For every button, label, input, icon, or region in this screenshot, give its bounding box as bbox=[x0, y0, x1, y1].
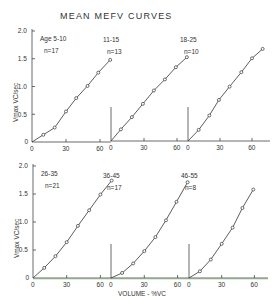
data-point-marker bbox=[76, 224, 79, 227]
data-point-marker bbox=[132, 262, 135, 265]
x-tick-label: 0 bbox=[30, 145, 34, 152]
data-point-marker bbox=[88, 209, 91, 212]
sample-size-label: n=17 bbox=[107, 184, 122, 191]
mefv-curve bbox=[111, 182, 188, 278]
data-point-marker bbox=[217, 98, 220, 101]
data-point-marker bbox=[43, 266, 46, 269]
age-group-label: 26-35 bbox=[41, 170, 58, 177]
panel-bottom-left: 0306000.51.01.52.0Vmax VC/sec26-35n=21 bbox=[13, 162, 113, 288]
data-point-marker bbox=[65, 241, 68, 244]
data-point-marker bbox=[152, 89, 155, 92]
panel-bottom-right: 0306046-55n=8 bbox=[181, 172, 268, 288]
data-point-marker bbox=[197, 128, 200, 131]
data-point-marker bbox=[231, 226, 234, 229]
panel-bottom-middle: 0306036-45n=17 bbox=[103, 172, 189, 288]
x-tick-label: 0 bbox=[31, 281, 35, 288]
data-point-marker bbox=[174, 66, 177, 69]
sample-size-label: n=17 bbox=[44, 47, 59, 54]
x-tick-label: 30 bbox=[216, 144, 224, 151]
y-tick-label: 1.0 bbox=[19, 218, 28, 225]
chart-title: MEAN MEFV CURVES bbox=[60, 11, 173, 21]
y-tick-label: 1.0 bbox=[18, 83, 27, 90]
data-point-marker bbox=[261, 47, 264, 50]
data-point-marker bbox=[241, 207, 244, 210]
x-tick-label: 0 bbox=[109, 144, 113, 151]
x-tick-label: 60 bbox=[96, 145, 104, 152]
data-point-marker bbox=[154, 236, 157, 239]
x-tick-label: 0 bbox=[187, 281, 191, 288]
sample-size-label: n=10 bbox=[184, 48, 199, 55]
panel-top-right: 0306018-25n=10 bbox=[180, 36, 270, 151]
age-group-label: 18-25 bbox=[180, 36, 197, 43]
chart-panels: 0306000.51.01.52.0Vmax VC/secAge 5-10n=1… bbox=[12, 27, 270, 288]
data-point-marker bbox=[110, 179, 113, 182]
y-tick-label: 1.5 bbox=[19, 190, 28, 197]
data-point-marker bbox=[252, 188, 255, 191]
data-point-marker bbox=[99, 193, 102, 196]
x-tick-label: 60 bbox=[248, 144, 256, 151]
x-tick-label: 30 bbox=[141, 281, 149, 288]
x-tick-label: 30 bbox=[63, 281, 71, 288]
x-tick-label: 0 bbox=[109, 281, 113, 288]
y-tick-label: 2.0 bbox=[19, 162, 28, 169]
data-point-marker bbox=[143, 250, 146, 253]
data-point-marker bbox=[54, 255, 57, 258]
x-tick-label: 60 bbox=[173, 144, 181, 151]
panel-top-middle: 0306011-15n=13 bbox=[103, 36, 188, 151]
data-point-marker bbox=[97, 71, 100, 74]
y-tick-label: 0 bbox=[26, 274, 30, 281]
age-group-label: 11-15 bbox=[103, 36, 120, 43]
data-point-marker bbox=[75, 97, 78, 100]
sample-size-label: n=8 bbox=[185, 184, 196, 191]
data-point-marker bbox=[251, 57, 254, 60]
data-point-marker bbox=[141, 102, 144, 105]
x-tick-label: 60 bbox=[97, 281, 105, 288]
mefv-chart: MEAN MEFV CURVES 0306000.51.01.52.0Vmax … bbox=[0, 0, 280, 300]
data-point-marker bbox=[86, 84, 89, 87]
data-point-marker bbox=[240, 71, 243, 74]
data-point-marker bbox=[228, 85, 231, 88]
x-tick-label: 30 bbox=[140, 144, 148, 151]
data-point-marker bbox=[209, 258, 212, 261]
mefv-curve bbox=[189, 190, 253, 279]
age-group-label: 36-45 bbox=[103, 172, 120, 179]
y-tick-label: 0.5 bbox=[19, 246, 28, 253]
y-tick-label: 0 bbox=[25, 138, 29, 145]
panel-top-left: 0306000.51.01.52.0Vmax VC/secAge 5-10n=1… bbox=[12, 27, 112, 152]
data-point-marker bbox=[121, 271, 124, 274]
x-axis-label: VOLUME - %VC bbox=[118, 290, 166, 297]
x-tick-label: 60 bbox=[174, 281, 182, 288]
data-point-marker bbox=[198, 270, 201, 273]
age-group-label: Age 5-10 bbox=[40, 35, 67, 43]
data-point-marker bbox=[175, 200, 178, 203]
y-axis-label: Vmax VC/sec bbox=[13, 218, 20, 258]
data-point-marker bbox=[42, 133, 45, 136]
data-point-marker bbox=[163, 78, 166, 81]
y-axis-label: Vmax VC/sec bbox=[12, 82, 19, 122]
data-point-marker bbox=[185, 56, 188, 59]
x-tick-label: 30 bbox=[62, 145, 70, 152]
age-group-label: 46-55 bbox=[181, 172, 198, 179]
x-tick-label: 0 bbox=[186, 144, 190, 151]
data-point-marker bbox=[208, 114, 211, 117]
data-point-marker bbox=[164, 219, 167, 222]
x-tick-label: 30 bbox=[218, 281, 226, 288]
x-tick-label: 60 bbox=[251, 281, 259, 288]
data-point-marker bbox=[53, 126, 56, 129]
y-tick-label: 1.5 bbox=[18, 55, 27, 62]
sample-size-label: n=21 bbox=[45, 182, 60, 189]
sample-size-label: n=13 bbox=[107, 48, 122, 55]
data-point-marker bbox=[65, 110, 68, 113]
data-point-marker bbox=[130, 116, 133, 119]
data-point-marker bbox=[220, 242, 223, 245]
data-point-marker bbox=[109, 58, 112, 61]
data-point-marker bbox=[119, 128, 122, 131]
mefv-curve bbox=[188, 49, 263, 141]
y-tick-label: 0.5 bbox=[18, 111, 27, 118]
y-tick-label: 2.0 bbox=[18, 27, 27, 34]
